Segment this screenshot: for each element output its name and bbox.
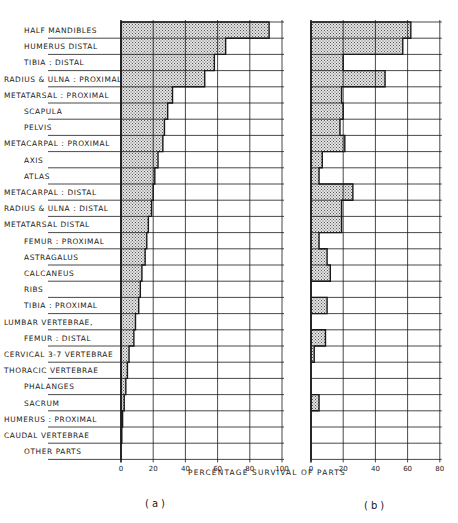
caption-b: (b) (364, 500, 387, 511)
panel-a-bars (121, 22, 269, 459)
x-axis-title: PERCENTAGE SURVIVAL OF PARTS (188, 468, 346, 477)
x-tick-label: 40 (365, 465, 385, 473)
panel-b-bars (311, 22, 411, 459)
x-tick-label: 60 (398, 465, 418, 473)
x-tick-label: 80 (430, 465, 450, 473)
x-tick-label: 20 (143, 465, 163, 473)
plot-area (0, 0, 458, 523)
caption-a: (a) (145, 498, 168, 509)
x-tick-label: 0 (111, 465, 131, 473)
